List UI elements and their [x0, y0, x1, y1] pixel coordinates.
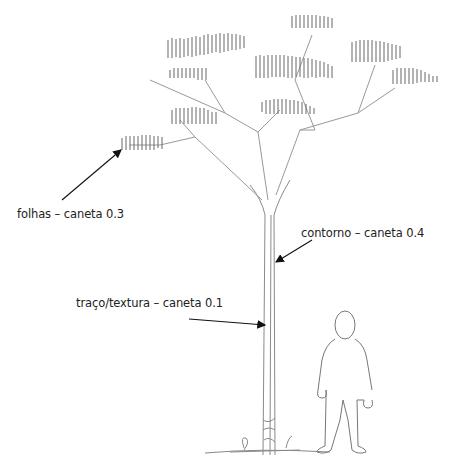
- leaf-cluster-mid-left: [170, 68, 206, 80]
- leaf-cluster-top-left: [168, 33, 244, 58]
- leaf-cluster-right: [393, 68, 437, 84]
- leaf-cluster-center: [256, 55, 332, 78]
- arrow-outline: [276, 240, 312, 262]
- arrow-leaves: [62, 150, 121, 200]
- label-texture: traço/textura – caneta 0.1: [76, 296, 223, 310]
- label-leaves: folhas – caneta 0.3: [17, 207, 124, 221]
- leaf-cluster-lower-center: [262, 99, 314, 114]
- leaf-cluster-right-top: [352, 40, 400, 62]
- leaf-cluster-top-center: [292, 15, 332, 28]
- leaf-clusters: [122, 15, 437, 150]
- leaf-cluster-far-left: [122, 135, 162, 150]
- tree-branches: [130, 35, 395, 200]
- human-figure: [317, 311, 373, 453]
- tree-trunk: [250, 180, 290, 455]
- leaf-cluster-lower-left: [172, 107, 216, 124]
- label-outline: contorno – caneta 0.4: [301, 226, 424, 240]
- arrow-texture: [189, 319, 265, 325]
